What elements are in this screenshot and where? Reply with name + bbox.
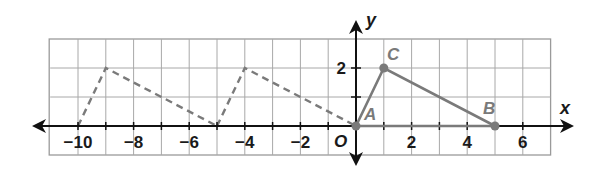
point-B — [491, 122, 500, 131]
point-C — [379, 64, 388, 73]
origin-label: O — [334, 132, 347, 151]
coordinate-plane: −10−8−6−4−22462 x y O A C B — [0, 0, 604, 171]
x-tick-label: −6 — [180, 133, 199, 152]
point-label-C: C — [387, 45, 400, 64]
y-tick-label: 2 — [337, 59, 346, 78]
x-tick-label: 4 — [462, 133, 472, 152]
x-tick-label: −10 — [64, 133, 93, 152]
y-axis-label: y — [365, 10, 377, 30]
x-axis-label: x — [559, 98, 571, 118]
x-tick-label: 2 — [407, 133, 416, 152]
point-A — [352, 122, 361, 131]
x-tick-label: 6 — [518, 133, 527, 152]
x-tick-label: −4 — [235, 133, 255, 152]
point-label-A: A — [363, 105, 376, 124]
point-label-B: B — [483, 99, 495, 118]
x-tick-label: −2 — [291, 133, 310, 152]
x-tick-label: −8 — [124, 133, 143, 152]
